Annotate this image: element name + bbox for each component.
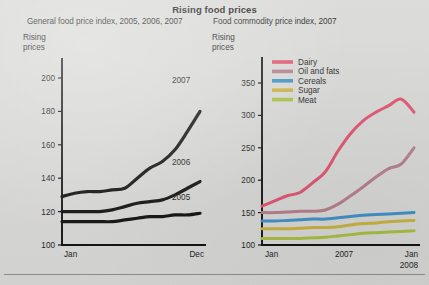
right-series-line — [262, 213, 414, 221]
right-chart-subtitle: Food commodity price index, 2007 — [213, 17, 337, 26]
right-x-tick-label: Jan — [405, 250, 419, 259]
right-y-tick-label: 300 — [241, 111, 255, 120]
left-series-label: 2007 — [172, 76, 191, 85]
left-chart-subtitle: General food price index, 2005, 2006, 20… — [27, 17, 182, 26]
left-x-tick-label: Dec — [189, 250, 204, 259]
legend-item: Meat — [272, 96, 317, 105]
left-x-tick-label: Jan — [64, 250, 78, 259]
left-y-tick-label: 180 — [41, 107, 55, 116]
right-y-tick-label: 150 — [241, 209, 255, 218]
right-y-axis-caption-line1: Rising — [212, 33, 235, 42]
left-y-tick-label: 140 — [41, 174, 55, 183]
legend-label: Dairy — [298, 58, 318, 67]
legend-label: Meat — [298, 96, 317, 105]
right-chart-plot: 350300250200150100Jan2007Jan2008DairyOil… — [212, 0, 429, 285]
right-y-axis-caption: Rising prices — [212, 33, 235, 53]
legend-item: Sugar — [272, 86, 320, 95]
legend-item: Dairy — [272, 58, 318, 67]
left-series-label: 2005 — [172, 193, 191, 202]
legend-label: Sugar — [298, 86, 320, 95]
right-y-tick-label: 100 — [241, 241, 255, 250]
right-series-line — [262, 231, 414, 239]
legend-label: Oil and fats — [298, 67, 339, 76]
right-series-line — [262, 99, 414, 206]
right-x-tick-label: 2007 — [335, 250, 354, 259]
legend-item: Cereals — [272, 77, 326, 86]
right-x-tick-label: Jan — [265, 250, 279, 259]
left-y-axis-caption-line2: prices — [23, 43, 45, 52]
left-y-tick-label: 200 — [41, 74, 55, 83]
right-series-line — [262, 148, 414, 213]
left-series-line — [62, 213, 200, 221]
right-y-axis-caption-line2: prices — [212, 43, 234, 52]
left-series-line — [62, 111, 200, 196]
left-y-tick-label: 120 — [41, 208, 55, 217]
legend-item: Oil and fats — [272, 67, 339, 76]
right-chart-panel: Food commodity price index, 2007 Rising … — [212, 0, 429, 285]
footer-divider — [4, 274, 425, 275]
left-y-tick-label: 160 — [41, 141, 55, 150]
right-x-tick-label: 2008 — [400, 261, 419, 270]
right-y-tick-label: 250 — [241, 144, 255, 153]
left-series-label: 2006 — [172, 158, 191, 167]
right-y-tick-label: 350 — [241, 79, 255, 88]
left-y-axis-caption: Rising prices — [23, 33, 46, 53]
legend-label: Cereals — [298, 77, 326, 86]
right-y-tick-label: 200 — [241, 176, 255, 185]
left-y-axis-caption-line1: Rising — [23, 33, 46, 42]
left-chart-panel: General food price index, 2005, 2006, 20… — [0, 0, 212, 285]
left-y-tick-label: 100 — [41, 241, 55, 250]
